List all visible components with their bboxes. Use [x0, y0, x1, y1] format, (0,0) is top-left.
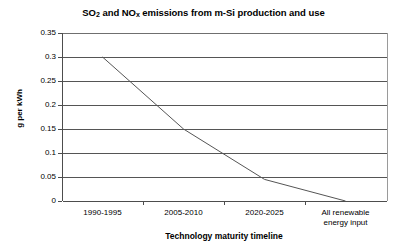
- y-tick-label: 0.2: [4, 101, 56, 109]
- y-tick-mark: [58, 33, 62, 34]
- x-tick-mark: [305, 201, 306, 205]
- y-tick-mark: [58, 177, 62, 178]
- y-tick-mark: [58, 153, 62, 154]
- x-tick-mark: [143, 201, 144, 205]
- gridline-0.3: [63, 57, 387, 58]
- y-tick-mark: [58, 105, 62, 106]
- y-tick-label: 0.1: [4, 149, 56, 157]
- chart-title-mid: and NO: [100, 7, 136, 18]
- chart-figure: SO2 and NOx emissions from m-Si producti…: [0, 0, 407, 246]
- chart-title-tail: emissions from m-Si production and use: [140, 7, 325, 18]
- x-tick-label: All renewable energy input: [291, 208, 401, 228]
- x-axis-title: Technology maturity timeline: [62, 231, 386, 241]
- gridline-0.1: [63, 153, 387, 154]
- y-tick-label: 0: [4, 197, 56, 205]
- gridline-0.15: [63, 129, 387, 130]
- y-tick-label: 0.35: [4, 29, 56, 37]
- y-tick-label: 0.3: [4, 53, 56, 61]
- x-tick-mark: [224, 201, 225, 205]
- y-tick-label: 0.05: [4, 173, 56, 181]
- chart-title: SO2 and NOx emissions from m-Si producti…: [0, 7, 407, 21]
- y-tick-label: 0.15: [4, 125, 56, 133]
- y-tick-mark: [58, 57, 62, 58]
- y-tick-mark: [58, 129, 62, 130]
- gridline-0.2: [63, 105, 387, 106]
- y-tick-mark: [58, 81, 62, 82]
- plot-area: [62, 33, 388, 201]
- gridline-0.05: [63, 177, 387, 178]
- gridline-0.25: [63, 81, 387, 82]
- y-tick-label: 0.25: [4, 77, 56, 85]
- gridline-0.35: [63, 33, 387, 34]
- y-tick-mark: [58, 201, 62, 202]
- gridline-0: [63, 201, 387, 202]
- chart-title-so: SO: [82, 7, 96, 18]
